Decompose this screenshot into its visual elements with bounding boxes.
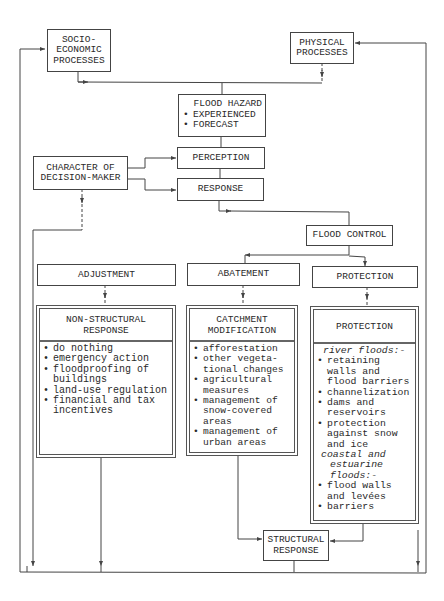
structural-line-1: STRUCTURAL <box>267 535 324 546</box>
protection-label: PROTECTION <box>336 272 393 283</box>
physical-processes-box: PHYSICAL PROCESSES <box>290 32 354 64</box>
list-item: agriculturalmeasures <box>193 375 291 396</box>
response-label: RESPONSE <box>198 184 244 195</box>
structural-line-2: RESPONSE <box>273 546 319 557</box>
abatement-box: ABATEMENT <box>187 263 300 286</box>
list-item: barriers <box>317 502 412 512</box>
protection-detail-header: PROTECTION <box>314 310 415 344</box>
physical-line-2: PROCESSES <box>296 48 347 59</box>
abatement-label: ABATEMENT <box>218 269 269 280</box>
response-box: RESPONSE <box>177 178 264 201</box>
character-of-decision-maker-box: CHARACTER OF DECISION-MAKER <box>33 156 128 190</box>
catchment-header: CATCHMENT MODIFICATION <box>190 309 294 342</box>
list-item: retainingwalls andflood barriers <box>317 356 412 387</box>
list-item: management ofurban areas <box>193 427 291 448</box>
flood-control-box: FLOOD CONTROL <box>306 225 393 246</box>
list-item: flood wallsand levées <box>317 481 412 502</box>
catchment-modification-box: CATCHMENT MODIFICATION afforestation oth… <box>186 305 298 456</box>
non-structural-response-box: NON-STRUCTURAL RESPONSE do nothing emerg… <box>36 305 176 458</box>
adjustment-box: ADJUSTMENT <box>37 264 176 286</box>
perception-label: PERCEPTION <box>192 153 249 164</box>
protection-detail-list: river floods:- retainingwalls andflood b… <box>314 344 415 515</box>
non-structural-list: do nothing emergency action floodproofin… <box>40 342 172 419</box>
list-item: financial and taxincentives <box>43 396 169 417</box>
flood-control-label: FLOOD CONTROL <box>312 230 386 241</box>
protection-box: PROTECTION <box>312 266 418 288</box>
structural-response-box: STRUCTURAL RESPONSE <box>263 530 329 561</box>
list-item: dams andreservoirs <box>317 398 412 419</box>
catchment-list: afforestation other vegeta-tional change… <box>190 342 294 450</box>
list-item: management ofsnow-coveredareas <box>193 396 291 427</box>
socio-line-3: PROCESSES <box>53 56 104 67</box>
list-item: other vegeta-tional changes <box>193 354 291 375</box>
list-item: floodproofing ofbuildings <box>43 365 169 386</box>
hazard-bullet-forecast: FORECAST <box>183 120 262 131</box>
coastal-floods-heading: coastal andestuarinefloods:- <box>317 450 412 481</box>
socio-economic-processes-box: SOCIO- ECONOMIC PROCESSES <box>47 29 111 72</box>
perception-box: PERCEPTION <box>177 147 265 169</box>
adjustment-label: ADJUSTMENT <box>78 270 135 281</box>
non-structural-header: NON-STRUCTURAL RESPONSE <box>40 309 172 342</box>
protection-detail-box: PROTECTION river floods:- retainingwalls… <box>310 306 419 524</box>
character-line-2: DECISION-MAKER <box>41 173 121 184</box>
list-item: protectionagainst snowand ice <box>317 419 412 450</box>
flood-hazard-box: FLOOD HAZARD EXPERIENCED FORECAST <box>178 94 266 137</box>
